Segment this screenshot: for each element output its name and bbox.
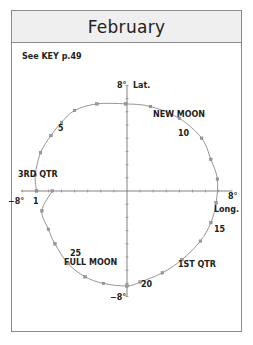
- day-15-label: 15: [214, 225, 226, 234]
- orbit-point: [96, 103, 99, 106]
- orbit-point: [200, 137, 203, 140]
- full-moon-label: FULL MOON: [64, 258, 117, 267]
- orbit-point: [73, 109, 76, 112]
- orbit-point: [47, 228, 50, 231]
- orbit-point: [102, 282, 105, 285]
- orbit-point: [50, 134, 53, 137]
- orbit-point: [54, 243, 57, 246]
- long-max-label: 8°: [228, 192, 238, 201]
- orbit-point: [39, 151, 42, 154]
- day-1-label: 1: [33, 197, 39, 206]
- orbit-point: [51, 190, 54, 193]
- orbit-point: [126, 285, 129, 288]
- orbit-point: [210, 221, 213, 224]
- orbit-point: [41, 210, 44, 213]
- first-quarter-label: 1ST QTR: [178, 260, 216, 269]
- lat-label: Lat.: [133, 81, 150, 90]
- orbit-point: [210, 158, 213, 161]
- day-20-label: 20: [141, 280, 153, 289]
- orbit-point: [199, 240, 202, 243]
- new-moon-label: NEW MOON: [153, 110, 205, 119]
- day-10-label: 10: [178, 129, 190, 138]
- libration-diagram: 8° Lat. −8° −8° 8° Long. NEW MOON 1ST QT…: [0, 0, 253, 345]
- third-quarter-label: 3RD QTR: [18, 170, 58, 179]
- orbit-point: [216, 178, 219, 181]
- long-min-label: −8°: [8, 197, 24, 206]
- day-25-label: 25: [70, 249, 82, 258]
- orbit-point: [124, 103, 127, 106]
- long-label: Long.: [214, 205, 239, 214]
- orbit-point: [84, 276, 87, 279]
- orbit-point: [35, 190, 38, 193]
- lat-min-label: −8°: [110, 293, 126, 302]
- orbit-point: [215, 202, 218, 205]
- day-5-label: 5: [58, 124, 64, 133]
- lat-max-label: 8°: [117, 81, 127, 90]
- orbit-point: [149, 105, 152, 108]
- orbit-point: [161, 272, 164, 275]
